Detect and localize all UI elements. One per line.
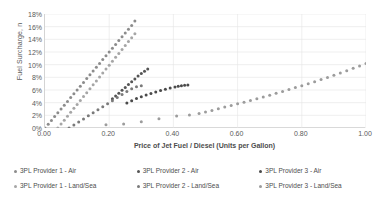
data-point [177,85,180,88]
x-tick-label: 1.00 [358,130,372,137]
data-point [69,111,72,114]
y-tick-label: 2% [18,112,42,119]
x-tick-label: 0.60 [230,130,244,137]
data-point [104,123,107,126]
y-tick-label: 14% [18,36,42,43]
data-point [50,119,53,122]
data-point [121,35,124,38]
data-point [116,96,119,99]
data-point [101,72,104,75]
data-point [249,99,252,102]
data-point [149,92,152,95]
data-point [164,88,167,91]
legend-item[interactable]: 3PL Provider 1 - Land/Sea [14,183,137,190]
legend-item[interactable]: 3PL Provider 3 - Air [259,168,382,175]
x-axis-tick-labels: 0.000.200.400.600.801.00 [44,130,365,142]
data-point [262,95,265,98]
data-point [66,100,69,103]
data-point [72,107,75,110]
legend-marker-icon [14,170,17,173]
y-tick-label: 8% [18,74,42,81]
x-tick-label: 0.20 [101,130,115,137]
data-point [56,127,59,129]
data-point [88,73,91,76]
legend-label: 3PL Provider 3 - Air [265,168,321,175]
data-point [45,127,47,129]
data-point [174,85,177,88]
data-point [300,84,303,87]
data-point [154,90,157,93]
data-point [294,86,297,89]
data-point [92,111,95,114]
legend-item[interactable]: 3PL Provider 2 - Air [137,168,260,175]
legend-label: 3PL Provider 1 - Land/Sea [20,183,96,190]
legend-item[interactable]: 3PL Provider 1 - Air [14,168,137,175]
data-point [320,78,323,81]
data-point [56,111,59,114]
data-point [101,105,104,108]
data-point [133,77,136,80]
data-point [68,127,71,129]
data-point [124,44,127,47]
data-point [188,114,191,117]
legend-marker-icon [259,170,262,173]
data-point [69,96,72,99]
data-point [135,97,138,100]
data-point [217,107,220,110]
data-point [117,52,120,55]
data-point [121,48,124,51]
data-point [130,87,133,90]
y-tick-label: 16% [18,23,42,30]
x-tick-label: 0.00 [37,130,51,137]
legend-marker-icon [137,170,140,173]
data-point [85,91,88,94]
data-point [124,32,127,35]
data-point [114,56,117,59]
data-point [111,60,114,63]
data-point [76,103,79,106]
legend-item[interactable]: 3PL Provider 3 - Land/Sea [259,183,382,190]
data-point [108,51,111,54]
data-point [275,92,278,95]
data-point [108,64,111,67]
data-point [117,39,120,42]
data-point [180,84,183,87]
data-point [98,62,101,65]
data-point [127,40,130,43]
data-point [130,36,133,39]
data-point [345,69,348,72]
data-point [82,117,85,120]
data-point [157,117,160,120]
legend-label: 3PL Provider 1 - Air [20,168,76,175]
y-tick-label: 10% [18,61,42,68]
data-point [268,94,271,97]
legend-marker-icon [14,185,17,188]
data-point [140,120,143,123]
data-point [63,119,66,122]
data-point [79,85,82,88]
data-point [125,101,128,104]
data-point [140,95,143,98]
data-point [76,89,79,92]
data-point [92,83,95,86]
data-point [137,75,140,78]
data-point [127,83,130,86]
data-point [287,88,290,91]
data-point [307,82,310,85]
data-point [121,89,124,92]
plot-area [44,14,365,128]
series-4 [68,84,143,128]
data-point [85,77,88,80]
data-point [326,76,329,79]
x-tick-label: 0.80 [294,130,308,137]
data-point [339,72,342,75]
legend-item[interactable]: 3PL Provider 2 - Land/Sea [137,183,260,190]
data-point [60,108,63,111]
data-point [352,67,355,70]
data-point [145,94,148,97]
data-point [332,74,335,77]
data-point [114,43,117,46]
data-point [133,32,136,35]
data-point [104,54,107,57]
data-point [183,84,186,87]
